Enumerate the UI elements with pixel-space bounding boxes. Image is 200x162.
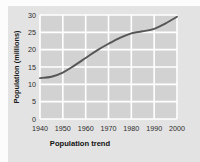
y-axis-tick-labels: 051015202530 bbox=[28, 11, 36, 124]
x-axis-tick-label: 1940 bbox=[32, 124, 48, 133]
x-axis-tick-labels: 1940195019601970198019902000 bbox=[32, 124, 185, 133]
y-axis-tick-label: 25 bbox=[28, 28, 36, 37]
x-axis-tick-label: 1950 bbox=[55, 124, 71, 133]
x-axis-tick-label: 1960 bbox=[78, 124, 94, 133]
x-axis-title: Population trend bbox=[50, 139, 111, 148]
y-axis-tick-label: 30 bbox=[28, 11, 36, 20]
x-axis-tick-label: 1980 bbox=[123, 124, 139, 133]
x-axis-tick-label: 1990 bbox=[146, 124, 162, 133]
chart-figure: 051015202530 194019501960197019801990200… bbox=[0, 0, 200, 162]
y-axis-tick-label: 20 bbox=[28, 45, 36, 54]
x-axis-tick-label: 1970 bbox=[101, 124, 117, 133]
y-axis-tick-label: 10 bbox=[28, 80, 36, 89]
y-axis-title: Population (millions) bbox=[12, 30, 21, 104]
y-axis-tick-label: 0 bbox=[32, 115, 36, 124]
y-axis-tick-label: 15 bbox=[28, 63, 36, 72]
y-axis-tick-label: 5 bbox=[32, 97, 36, 106]
x-axis-tick-label: 2000 bbox=[169, 124, 185, 133]
population-trend-line-chart: 051015202530 194019501960197019801990200… bbox=[0, 0, 200, 162]
